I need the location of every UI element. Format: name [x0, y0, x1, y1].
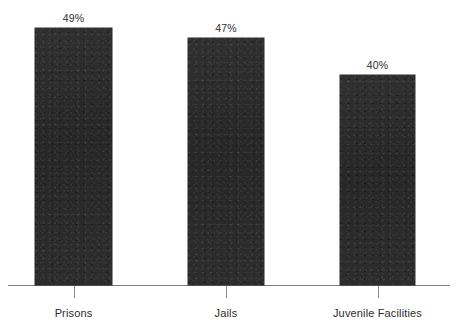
x-axis-tick-jails: [226, 286, 227, 298]
x-axis-tick-juvenile-facilities: [378, 286, 379, 298]
plot-area: 49% 47% 40% Prisons Jails Juvenile Facil…: [0, 0, 459, 331]
category-label-jails: Jails: [166, 308, 286, 319]
value-label-prisons: 49%: [34, 13, 114, 24]
category-label-juvenile-facilities: Juvenile Facilities: [308, 308, 448, 319]
bar-jails[interactable]: [188, 38, 264, 285]
bar-prisons[interactable]: [35, 28, 112, 285]
value-label-jails: 47%: [186, 23, 266, 34]
value-label-juvenile-facilities: 40%: [338, 60, 418, 71]
bar-chart: 49% 47% 40% Prisons Jails Juvenile Facil…: [0, 0, 459, 331]
category-label-prisons: Prisons: [14, 308, 134, 319]
bar-juvenile-facilities[interactable]: [340, 75, 415, 285]
x-axis-tick-prisons: [74, 286, 75, 298]
